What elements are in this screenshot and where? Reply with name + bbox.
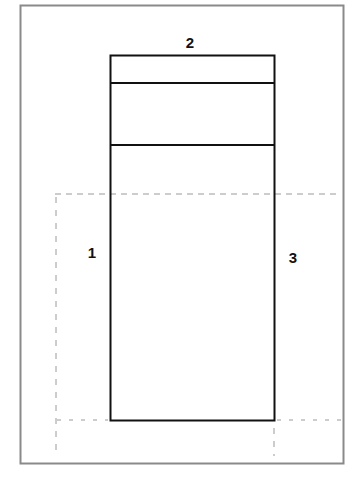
label-3: 3 [289, 250, 297, 265]
label-1: 1 [88, 245, 96, 260]
outer-frame [21, 6, 344, 464]
main-rectangle [111, 56, 275, 421]
diagram-svg [0, 0, 362, 488]
diagram-canvas: 1 2 3 [0, 0, 362, 488]
label-2: 2 [186, 35, 194, 50]
